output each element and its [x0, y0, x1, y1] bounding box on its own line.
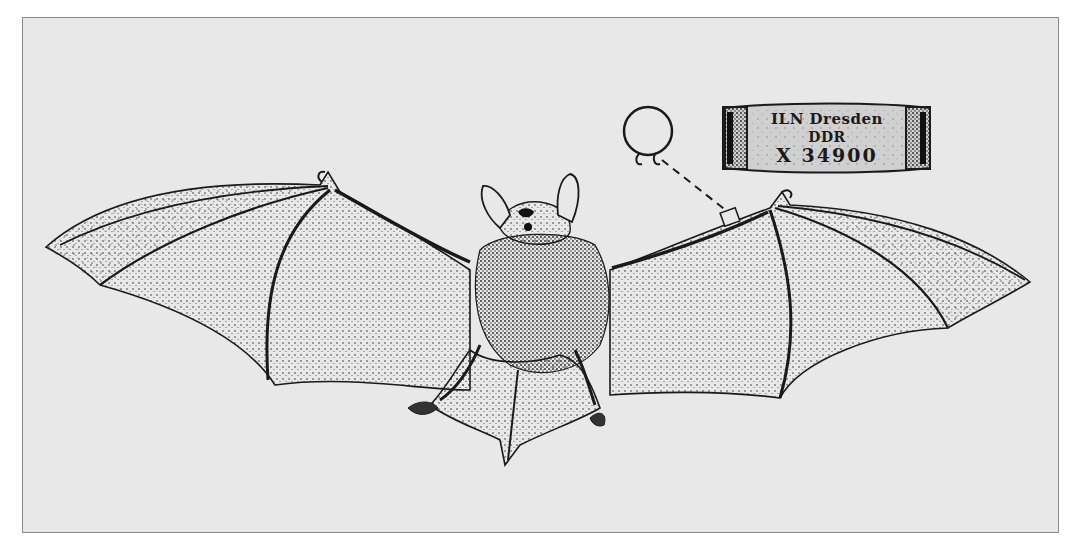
- right-wing: [610, 190, 1030, 398]
- bat-illustration: [0, 0, 1086, 556]
- band-text-line1: ILN Dresden: [752, 112, 902, 127]
- left-ear: [482, 186, 510, 228]
- band-text-line3: X 34900: [752, 146, 902, 165]
- leader-line: [662, 160, 728, 212]
- right-foot: [590, 413, 605, 426]
- right-ear: [558, 174, 579, 222]
- open-ring-icon: [624, 107, 672, 164]
- band-text-line2: DDR: [752, 130, 902, 144]
- bat-body: [475, 174, 609, 372]
- left-foot: [408, 402, 438, 414]
- left-wing: [46, 172, 470, 390]
